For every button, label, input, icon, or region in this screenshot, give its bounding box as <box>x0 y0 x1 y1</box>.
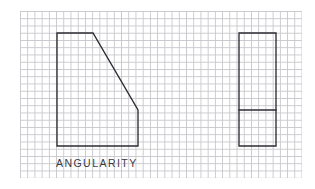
caption-angularity: ANGULARITY <box>56 157 138 170</box>
technical-drawing <box>0 0 315 189</box>
side-view-rectangle <box>239 33 276 146</box>
angularity-figure: ANGULARITY <box>0 0 315 189</box>
angled-part-profile <box>57 33 138 146</box>
